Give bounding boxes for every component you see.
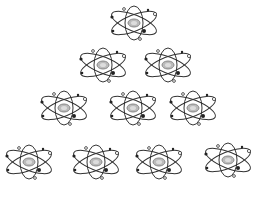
atom-icon xyxy=(166,89,220,127)
atom-icon xyxy=(106,89,160,127)
atom-icon xyxy=(201,141,255,179)
atom-icon xyxy=(107,4,161,42)
atom-icon xyxy=(141,46,195,84)
atom-icon xyxy=(2,143,56,181)
atom-icon xyxy=(76,46,130,84)
atom-icon xyxy=(37,89,91,127)
atom-icon xyxy=(69,143,123,181)
atom-icon xyxy=(132,143,186,181)
